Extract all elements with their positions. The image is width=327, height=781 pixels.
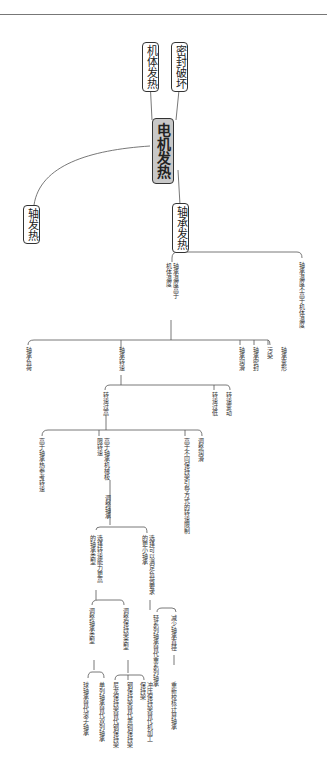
- node-root-motor-heat[interactable]: 电机发热: [152, 118, 174, 184]
- node-pollution[interactable]: 污染: [266, 347, 273, 359]
- node-above-cage-speed-limit[interactable]: 高于不同保持架引导方式的转速限制: [183, 438, 190, 534]
- node-single-for-double-row[interactable]: 单列轴承替代双列轴承: [98, 682, 105, 742]
- node-choose-smaller-bearing[interactable]: 选择可以满足负荷要求的更小轴承: [141, 535, 155, 595]
- node-seal-damage[interactable]: 密封破坏: [171, 42, 188, 92]
- node-bearing-temp-high[interactable]: 轴承温度高于机体温度: [165, 263, 179, 303]
- node-speed-change[interactable]: 转速变动: [225, 392, 232, 416]
- node-bearing-lubrication[interactable]: 轴承润滑: [238, 347, 245, 371]
- node-adjust-cage-type[interactable]: 调整保持架类型: [122, 608, 129, 650]
- node-bearing-seal[interactable]: 轴承密封: [252, 347, 259, 371]
- node-recheck-bearing[interactable]: 重新校核计算轴承: [170, 682, 177, 730]
- node-stamped-cage[interactable]: 冲压保持架替代机加工保持架: [139, 682, 153, 742]
- node-ball-for-roller[interactable]: 球轴承替代滚子轴承: [82, 682, 89, 736]
- node-bearing-temp-not-high[interactable]: 轴承温度不高于机体温度: [298, 262, 305, 328]
- node-bearing-speed[interactable]: 轴承转速: [118, 347, 125, 371]
- node-light-series-bearing[interactable]: 轻系列轴承替代重系列轴承: [152, 615, 159, 687]
- node-bearing-heat[interactable]: 轴承发热: [172, 203, 189, 253]
- node-above-mech-limit-speed[interactable]: 高于轴承机械极限转速: [96, 438, 110, 484]
- node-above-thermal-ref-speed[interactable]: 高于轴承热参考转速: [38, 438, 45, 492]
- node-steel-cage[interactable]: 钢保持架替代黄铜保持架: [126, 682, 133, 748]
- node-bearing-deform[interactable]: 轴承变形: [280, 347, 287, 371]
- node-reduce-diameter[interactable]: 减少轴承直径: [170, 615, 177, 651]
- node-body-heat[interactable]: 机体发热: [142, 42, 159, 92]
- node-nylon-cage[interactable]: 尼龙保持架替代钢保持架: [112, 682, 119, 748]
- node-adjust-bearing[interactable]: 调整轴承: [104, 495, 111, 519]
- node-bearing-load[interactable]: 轴承负荷: [25, 347, 32, 371]
- node-speed-too-high[interactable]: 转速过高: [102, 392, 109, 416]
- node-shaft-heat[interactable]: 轴发热: [23, 205, 40, 244]
- node-speed-too-low[interactable]: 转速过低: [211, 392, 218, 416]
- node-adjust-lubrication[interactable]: 调整润滑: [197, 438, 204, 462]
- node-choose-higher-speed-type[interactable]: 选择转速能力更高的轴承类型: [89, 535, 103, 587]
- node-adjust-bearing-type[interactable]: 调整轴承类型: [88, 608, 95, 644]
